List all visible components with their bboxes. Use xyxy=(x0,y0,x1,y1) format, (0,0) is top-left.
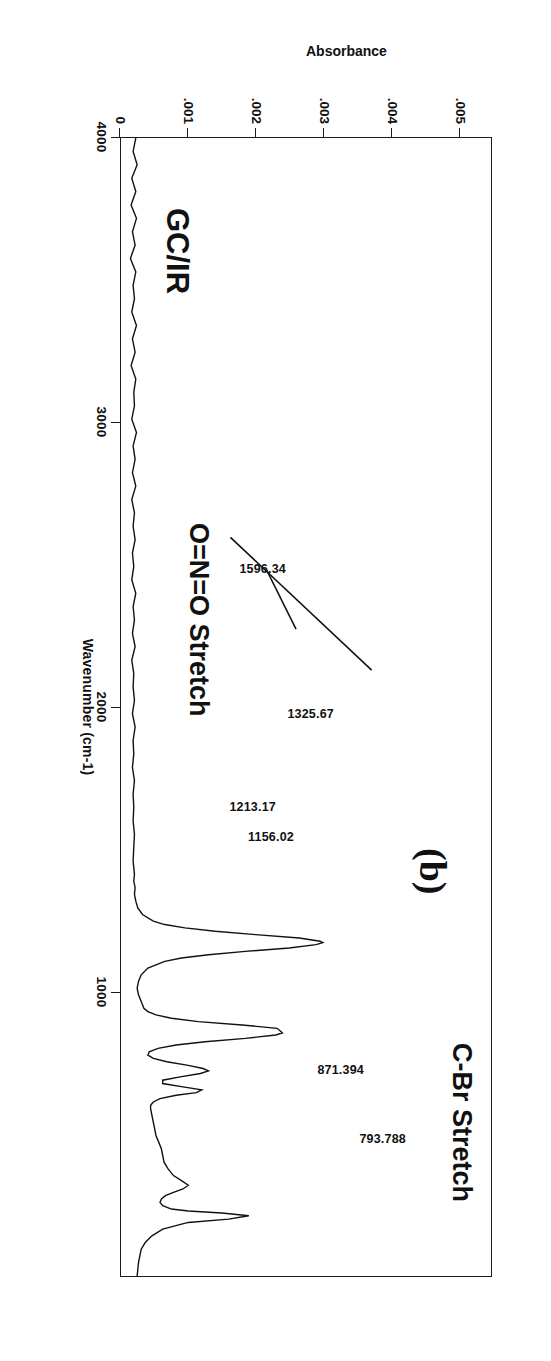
peak-label-1156: 1156.02 xyxy=(249,831,295,845)
y-tick-label-001: .001 xyxy=(181,98,196,124)
peak-label-1596: 1596.34 xyxy=(240,563,287,577)
plot-inner: (b) GC/IR O=N=O Stretch C-Br Stretch 159… xyxy=(122,139,492,1277)
y-tick-003 xyxy=(323,129,324,138)
y-axis-title: Absorbance xyxy=(307,44,388,60)
peak-label-1213: 1213.17 xyxy=(230,801,277,815)
figure-rotated-container: (b) GC/IR O=N=O Stretch C-Br Stretch 159… xyxy=(0,0,551,1361)
x-tick-label-4000: 4000 xyxy=(95,122,110,153)
x-tick-label-2000: 2000 xyxy=(95,692,110,723)
peak-label-793: 793.788 xyxy=(360,1133,407,1147)
x-tick-2000 xyxy=(112,708,121,709)
y-tick-002 xyxy=(255,129,256,138)
x-tick-label-3000: 3000 xyxy=(95,407,110,438)
x-tick-label-1000: 1000 xyxy=(95,977,110,1008)
y-tick-0 xyxy=(119,129,120,138)
peak-label-1325: 1325.67 xyxy=(288,708,335,722)
x-axis-title: Wavenumber (cm-1) xyxy=(81,138,97,1278)
annotation-cbr-stretch: C-Br Stretch xyxy=(447,1044,478,1203)
y-tick-label-003: .003 xyxy=(317,98,332,124)
peak-label-871: 871.394 xyxy=(318,1064,365,1078)
y-tick-005 xyxy=(459,129,460,138)
y-tick-label-002: .002 xyxy=(249,98,264,124)
chart-corner-title: GC/IR xyxy=(160,209,196,295)
y-tick-label-0: 0 xyxy=(113,117,128,125)
y-tick-label-005: .005 xyxy=(453,98,468,124)
x-tick-3000 xyxy=(112,423,121,424)
annotation-ono-stretch: O=N=O Stretch xyxy=(184,524,215,718)
y-tick-label-004: .004 xyxy=(385,98,400,124)
plot-area: (b) GC/IR O=N=O Stretch C-Br Stretch 159… xyxy=(121,138,493,1278)
y-tick-001 xyxy=(187,129,188,138)
panel-letter: (b) xyxy=(412,849,456,895)
ir-spectrum-chart: (b) GC/IR O=N=O Stretch C-Br Stretch 159… xyxy=(41,46,511,1316)
x-tick-1000 xyxy=(112,993,121,994)
y-tick-004 xyxy=(391,129,392,138)
